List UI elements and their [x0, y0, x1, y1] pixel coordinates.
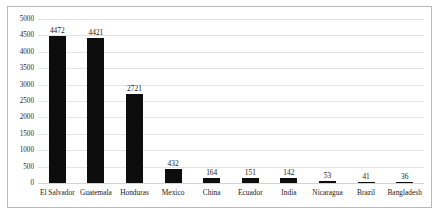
gridline	[38, 19, 424, 20]
bar-value-label: 432	[147, 159, 199, 168]
y-axis-tick-label: 1000	[20, 146, 34, 154]
bar	[203, 178, 220, 183]
bar-value-label: 36	[379, 172, 431, 181]
bar-value-label: 2721	[109, 84, 161, 93]
y-axis-tick-label: 3500	[20, 64, 34, 72]
y-axis: 0500100015002000250030003500400045005000	[0, 19, 34, 183]
y-axis-tick-label: 0	[30, 179, 34, 187]
bar	[396, 182, 413, 184]
bar	[165, 169, 182, 183]
y-axis-tick-label: 4000	[20, 48, 34, 56]
y-axis-tick-label: 5000	[20, 15, 34, 23]
bar	[49, 36, 66, 183]
y-axis-tick-label: 2500	[20, 97, 34, 105]
y-axis-tick-label: 2000	[20, 113, 34, 121]
bar-value-label: 4421	[70, 28, 122, 37]
y-axis-tick-label: 1500	[20, 130, 34, 138]
bar	[126, 94, 143, 183]
gridline	[38, 183, 424, 184]
bar	[242, 178, 259, 183]
bar	[280, 178, 297, 183]
plot-area	[38, 19, 424, 183]
bar	[358, 182, 375, 184]
bar	[319, 181, 336, 183]
x-axis-category-label: Bangladesh	[378, 188, 432, 197]
y-axis-tick-label: 3000	[20, 81, 34, 89]
bar-chart-figure: 0500100015002000250030003500400045005000…	[0, 0, 439, 219]
bar	[87, 38, 104, 183]
y-axis-tick-label: 500	[23, 163, 34, 171]
